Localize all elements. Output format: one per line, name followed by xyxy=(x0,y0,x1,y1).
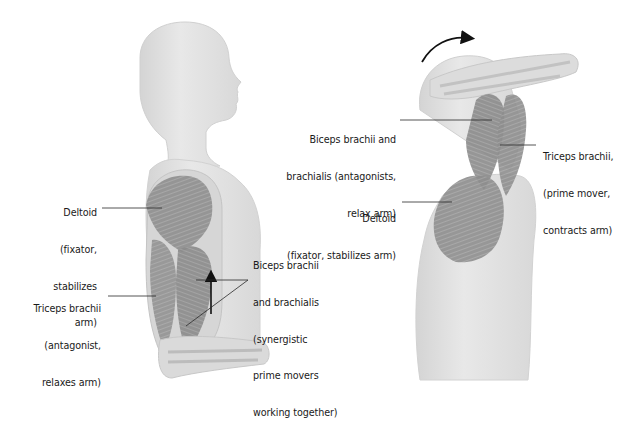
label-line: relaxes arm) xyxy=(34,377,101,389)
label-line: Deltoid xyxy=(53,207,97,219)
label-line: Biceps brachii and xyxy=(286,134,396,146)
label-line: Deltoid xyxy=(287,213,396,225)
label-left-triceps: Triceps brachii (antagonist, relaxes arm… xyxy=(34,279,101,401)
label-line: (antagonist, xyxy=(34,340,101,352)
label-right-deltoid: Deltoid (fixator, stabilizes arm) xyxy=(287,189,396,274)
label-line: Triceps brachii, xyxy=(543,151,613,163)
label-line: (prime mover, xyxy=(543,188,613,200)
left-head xyxy=(140,22,241,170)
label-line: brachialis (antagonists, xyxy=(286,171,396,183)
label-line: working together) xyxy=(253,407,337,419)
label-line: (fixator, xyxy=(53,244,97,256)
label-line: prime movers xyxy=(253,370,337,382)
label-line: Triceps brachii xyxy=(34,303,101,315)
label-right-triceps: Triceps brachii, (prime mover, contracts… xyxy=(543,127,613,249)
label-line: contracts arm) xyxy=(543,225,613,237)
label-line: (synergistic xyxy=(253,334,337,346)
left-figure-flexion xyxy=(140,22,269,378)
label-line: and brachialis xyxy=(253,297,337,309)
label-line: (fixator, stabilizes arm) xyxy=(287,250,396,262)
